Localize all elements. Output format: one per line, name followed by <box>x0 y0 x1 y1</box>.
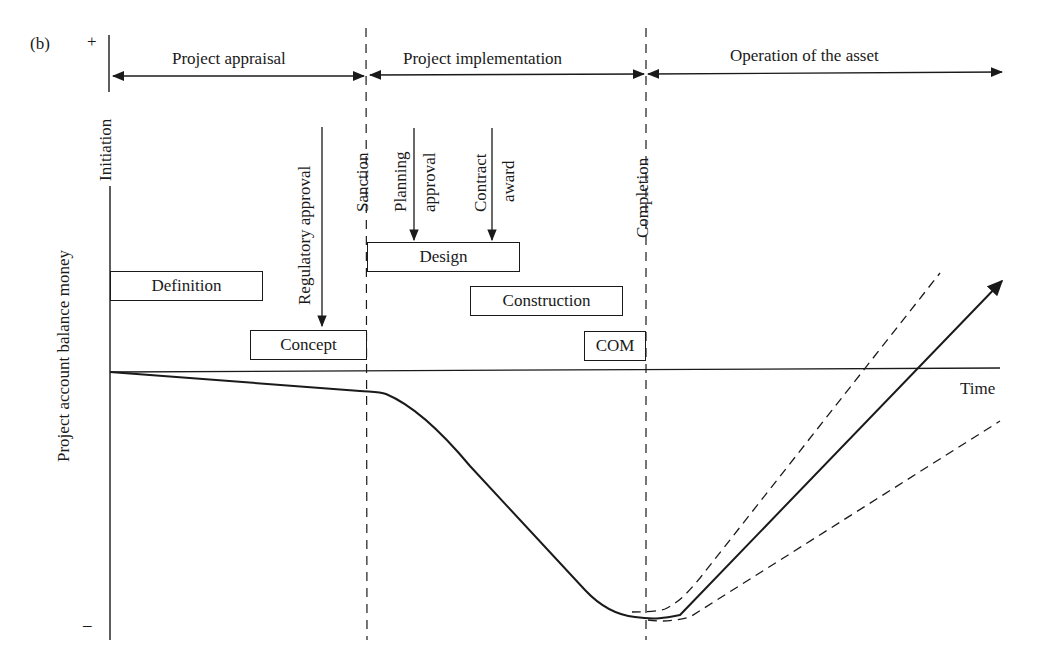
phase-label-appraisal: Project appraisal <box>172 50 286 67</box>
project-lifecycle-diagram <box>0 0 1039 666</box>
milestone-sanction: Sanction <box>354 153 371 213</box>
milestone-initiation: Initiation <box>97 119 114 181</box>
phase-label-operation: Operation of the asset <box>730 47 879 64</box>
balance-curve <box>110 281 1002 618</box>
activity-construction: Construction <box>470 286 623 316</box>
panel-label: (b) <box>30 35 50 52</box>
activity-definition: Definition <box>110 271 263 301</box>
lower-outcome-curve <box>648 421 1000 621</box>
y-axis-minus-sign: – <box>83 616 92 633</box>
milestone-contract-2: award <box>500 160 517 202</box>
phase-arrow-implementation <box>370 74 644 75</box>
activity-com: COM <box>584 331 646 361</box>
time-axis <box>110 368 1000 372</box>
milestone-planning-2: approval <box>421 153 438 212</box>
y-axis-plus-sign: + <box>87 33 97 50</box>
milestone-completion: Completion <box>634 158 651 238</box>
phase-arrow-operation <box>648 72 1002 74</box>
activity-design: Design <box>367 242 520 272</box>
milestone-planning: Planning <box>392 152 409 212</box>
milestone-regulatory-approval: Regulatory approval <box>296 166 313 305</box>
phase-label-implementation: Project implementation <box>403 50 562 67</box>
x-axis-label: Time <box>960 380 995 397</box>
y-axis-label: Project account balance money <box>55 250 72 462</box>
upper-outcome-curve <box>632 273 940 612</box>
milestone-contract: Contract <box>472 153 489 212</box>
activity-concept: Concept <box>250 330 367 360</box>
